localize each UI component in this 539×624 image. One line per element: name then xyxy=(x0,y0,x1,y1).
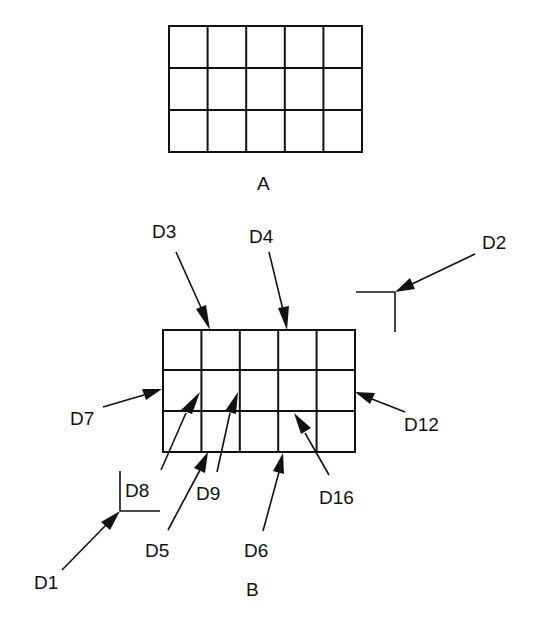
arrow-d6 xyxy=(263,453,284,531)
corner-d2 xyxy=(356,292,395,332)
label-d9: D9 xyxy=(196,483,220,504)
arrow-d1 xyxy=(62,511,120,570)
label-d12: D12 xyxy=(404,414,439,435)
arrow-d7 xyxy=(103,389,162,407)
label-b: B xyxy=(246,579,259,600)
label-d8: D8 xyxy=(125,480,149,501)
label-a: A xyxy=(257,173,270,194)
label-d3: D3 xyxy=(152,221,176,242)
label-d1: D1 xyxy=(34,572,58,593)
arrow-d3 xyxy=(176,252,210,330)
arrow-d9 xyxy=(217,392,238,472)
grid-a xyxy=(169,26,362,152)
label-d6: D6 xyxy=(244,540,268,561)
diagram-canvas: A B D3 D4 D2 D7 D12 xyxy=(0,0,539,624)
label-d5: D5 xyxy=(145,540,169,561)
arrow-d8 xyxy=(161,392,200,470)
arrow-d2 xyxy=(395,254,475,292)
grid-b xyxy=(163,330,355,452)
label-d16: D16 xyxy=(319,487,354,508)
label-d4: D4 xyxy=(249,226,274,247)
arrow-d16 xyxy=(294,413,329,475)
arrow-d4 xyxy=(269,252,289,330)
label-d7: D7 xyxy=(70,408,94,429)
label-d2: D2 xyxy=(482,232,506,253)
arrow-d12 xyxy=(355,392,405,412)
